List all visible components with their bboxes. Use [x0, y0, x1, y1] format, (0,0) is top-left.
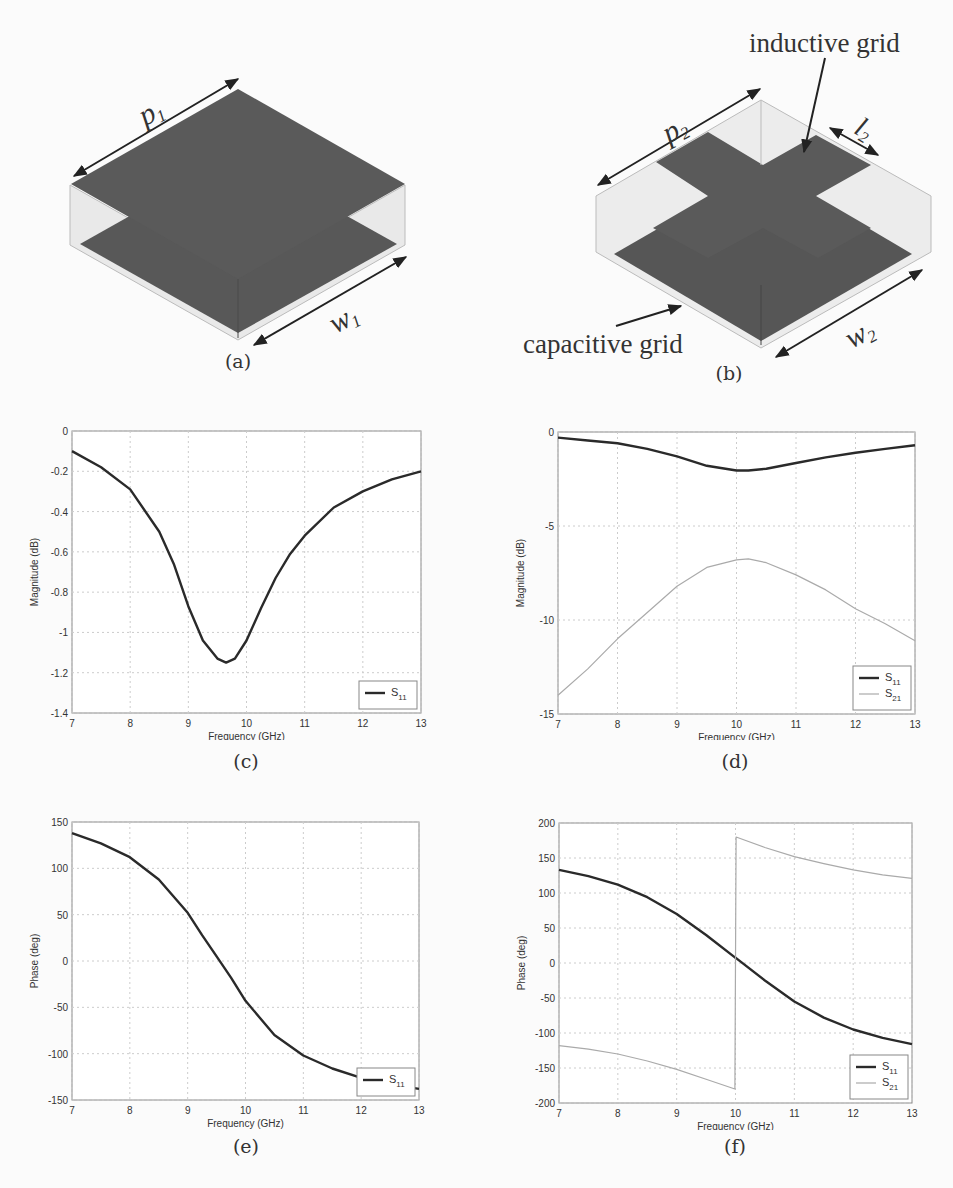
- panel-b-diagram: p2 l2 w2 inductive grid capacitive grid …: [476, 0, 953, 400]
- x-tick-label: 9: [185, 1105, 191, 1116]
- chart-c: 789101112130-0.2-0.4-0.6-0.8-1-1.2-1.4Fr…: [0, 410, 476, 780]
- x-tick-label: 7: [556, 1108, 562, 1119]
- y-tick-label: 150: [51, 817, 68, 828]
- panel-a-diagram: p1 w1 (a): [0, 0, 476, 400]
- y-tick-label: -100: [48, 1049, 68, 1060]
- x-tick-label: 7: [555, 719, 561, 730]
- y-tick-label: -15: [540, 709, 555, 720]
- y-axis-label: Phase (deg): [516, 936, 527, 990]
- y-tick-label: -200: [535, 1098, 555, 1109]
- legend: S11: [359, 681, 417, 709]
- y-tick-label: -1.4: [51, 708, 69, 719]
- y-tick-label: 0: [62, 426, 68, 437]
- y-axis-label: Magnitude (dB): [515, 539, 526, 607]
- x-axis-label: Frequency (GHz): [207, 1118, 284, 1129]
- chart-d-plot: 789101112130-5-10-15Frequency (GHz)Magni…: [476, 410, 953, 740]
- y-tick-label: 50: [57, 910, 69, 921]
- x-tick-label: 10: [240, 1105, 252, 1116]
- legend: S11S21: [850, 1055, 908, 1099]
- x-tick-label: 11: [789, 1108, 800, 1119]
- y-tick-label: -50: [54, 1002, 69, 1013]
- x-tick-label: 8: [615, 1108, 621, 1119]
- x-tick-label: 11: [791, 719, 802, 730]
- svg-text:w1: w1: [323, 297, 365, 341]
- y-tick-label: -0.2: [51, 466, 69, 477]
- y-tick-label: -10: [540, 615, 555, 626]
- x-axis-label: Frequency (GHz): [697, 1121, 774, 1130]
- x-tick-label: 11: [298, 1105, 309, 1116]
- y-tick-label: -150: [535, 1063, 555, 1074]
- x-tick-label: 12: [357, 718, 369, 729]
- x-tick-label: 8: [127, 718, 133, 729]
- caption-d: (d): [722, 750, 749, 772]
- x-tick-label: 8: [127, 1105, 133, 1116]
- y-tick-label: -150: [48, 1095, 68, 1106]
- capacitive-grid-pointer: [616, 306, 681, 326]
- x-tick-label: 11: [299, 718, 310, 729]
- legend: S11: [357, 1068, 415, 1096]
- chart-e: 78910111213150100500-50-100-150Frequency…: [0, 780, 476, 1188]
- y-tick-label: 0: [548, 427, 554, 438]
- x-tick-label: 7: [69, 1105, 75, 1116]
- y-tick-label: -0.6: [51, 547, 69, 558]
- x-tick-label: 13: [415, 718, 427, 729]
- x-tick-label: 10: [731, 719, 743, 730]
- y-tick-label: 200: [538, 818, 555, 829]
- x-tick-label: 13: [906, 1108, 918, 1119]
- legend: S11S21: [853, 666, 911, 710]
- svg-text:w2: w2: [839, 312, 881, 357]
- y-tick-label: -0.4: [51, 507, 69, 518]
- x-tick-label: 10: [241, 718, 253, 729]
- y-tick-label: -100: [535, 1028, 555, 1039]
- chart-f: 78910111213200150100500-50-100-150-200Fr…: [476, 780, 953, 1188]
- chart-c-plot: 789101112130-0.2-0.4-0.6-0.8-1-1.2-1.4Fr…: [0, 410, 476, 740]
- unit-cell-capacitive-diagram: p1 w1: [0, 0, 476, 400]
- x-tick-label: 12: [356, 1105, 368, 1116]
- chart-d: 789101112130-5-10-15Frequency (GHz)Magni…: [476, 410, 953, 780]
- chart-e-plot: 78910111213150100500-50-100-150Frequency…: [0, 780, 476, 1130]
- y-tick-label: -50: [541, 993, 556, 1004]
- svg-text:p1: p1: [131, 91, 170, 134]
- y-tick-label: 150: [538, 853, 555, 864]
- x-tick-label: 8: [615, 719, 621, 730]
- x-tick-label: 13: [413, 1105, 425, 1116]
- y-tick-label: -0.8: [51, 587, 69, 598]
- x-tick-label: 12: [850, 719, 862, 730]
- y-axis-label: Magnitude (dB): [29, 538, 40, 606]
- capacitive-grid-label: capacitive grid: [523, 329, 683, 359]
- x-tick-label: 12: [848, 1108, 860, 1119]
- y-tick-label: 0: [549, 958, 555, 969]
- y-tick-label: -5: [545, 521, 554, 532]
- y-axis-label: Phase (deg): [29, 934, 40, 988]
- caption-b: (b): [716, 362, 743, 384]
- caption-f: (f): [724, 1135, 746, 1157]
- y-tick-label: -1: [59, 627, 68, 638]
- y-tick-label: 100: [538, 888, 555, 899]
- x-tick-label: 9: [674, 719, 680, 730]
- x-tick-label: 13: [909, 719, 921, 730]
- caption-c: (c): [233, 750, 258, 772]
- y-tick-label: 50: [544, 923, 556, 934]
- y-tick-label: 100: [51, 863, 68, 874]
- inductive-grid-label: inductive grid: [749, 28, 900, 58]
- x-tick-label: 10: [730, 1108, 742, 1119]
- caption-e: (e): [233, 1135, 259, 1157]
- chart-f-plot: 78910111213200150100500-50-100-150-200Fr…: [476, 780, 953, 1130]
- x-tick-label: 9: [674, 1108, 680, 1119]
- x-tick-label: 9: [186, 718, 192, 729]
- y-tick-label: 0: [62, 956, 68, 967]
- y-tick-label: -1.2: [51, 668, 69, 679]
- x-axis-label: Frequency (GHz): [208, 731, 285, 740]
- x-tick-label: 7: [69, 718, 75, 729]
- unit-cell-inductive-capacitive-diagram: p2 l2 w2 inductive grid capacitive grid: [476, 0, 953, 400]
- caption-a: (a): [225, 350, 251, 372]
- x-axis-label: Frequency (GHz): [698, 732, 775, 740]
